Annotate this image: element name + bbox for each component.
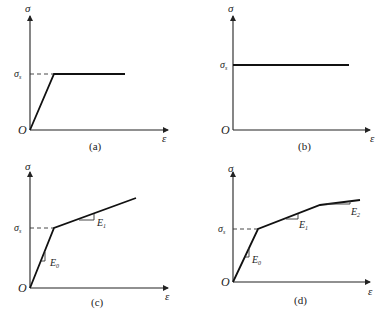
panel-caption: (b) [298,140,311,153]
y-axis-label: σ [25,160,31,172]
slope-label-e1: E1 [96,217,106,229]
panel-caption: (d) [294,294,307,307]
stress-strain-curve [30,74,125,130]
origin-label: O [18,123,27,137]
x-axis-label: ε [368,285,373,297]
slope-label-e0: E0 [49,257,59,269]
panel-a: σ ε O σs (a) [14,2,168,153]
y-axis-label: σ [25,2,31,14]
yield-stress-label: σs [14,222,22,234]
yield-stress-label: σs [218,223,226,235]
origin-label: O [221,275,230,289]
origin-label: O [221,123,230,137]
yield-stress-label: σs [14,68,22,80]
stress-strain-curve [233,200,360,282]
y-axis-label: σ [228,2,234,14]
x-axis-label: ε [165,290,170,302]
panel-d: σ ε O σs E0 E1 E2 (d) [218,162,373,307]
x-axis-label: ε [162,132,167,144]
panel-b: σ ε O σs (b) [220,2,375,153]
panel-caption: (c) [91,296,104,309]
panel-c: σ ε O σs E0 E1 (c) [14,160,170,309]
stress-strain-curve [30,198,136,288]
x-axis-label: ε [370,132,375,144]
slope-label-e1: E1 [298,219,308,231]
y-axis-label: σ [228,162,234,174]
slope-label-e0: E0 [251,254,261,266]
yield-stress-label: σs [220,59,228,71]
panel-caption: (a) [89,140,102,153]
origin-label: O [18,281,27,295]
slope-label-e2: E2 [350,206,360,218]
stress-strain-figure: σ ε O σs (a) σ ε O σs (b) σ ε O σs E0 E1… [0,0,388,316]
